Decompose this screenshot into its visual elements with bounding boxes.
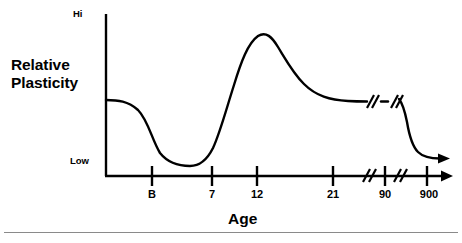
page-divider-rule	[4, 232, 458, 233]
x-tick-label-b: B	[148, 188, 156, 200]
x-tick-label-21: 21	[327, 188, 339, 200]
plot-area	[0, 0, 462, 243]
x-tick-label-12: 12	[251, 188, 263, 200]
curve-arrowhead	[438, 154, 450, 164]
plasticity-chart: Relative Plasticity Hi Low	[0, 0, 462, 243]
plasticity-curve-segment-2	[399, 99, 440, 159]
plasticity-curve-segment-1	[106, 34, 367, 166]
curve-break-icon	[367, 95, 403, 108]
x-tick-label-900: 900	[420, 188, 438, 200]
x-axis-arrowhead	[441, 171, 453, 182]
x-tick-label-7: 7	[209, 188, 215, 200]
x-tick-label-90: 90	[379, 188, 391, 200]
x-axis-title: Age	[228, 210, 257, 228]
